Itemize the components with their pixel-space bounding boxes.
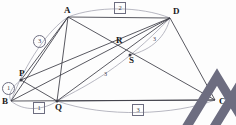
vertex-label-D: D bbox=[173, 7, 180, 16]
marker-tri-3-a-text: 3 bbox=[99, 71, 112, 77]
segment-A-B bbox=[11, 17, 68, 101]
vertex-label-A: A bbox=[64, 6, 71, 15]
marker-tri-3-a: 3 bbox=[99, 68, 112, 79]
marker-tri-3-b: 3 bbox=[148, 33, 161, 44]
marker-circle-1: 1 bbox=[2, 82, 15, 95]
point-dot-P bbox=[20, 79, 23, 82]
segment-A-D bbox=[68, 17, 170, 18]
vertex-label-S: S bbox=[129, 56, 134, 65]
vertex-label-P: P bbox=[19, 69, 25, 78]
geometry-diagram: ADBCPQRS 1312333 bbox=[0, 0, 236, 125]
vertex-label-B: B bbox=[2, 97, 8, 106]
marker-tri-3-b-text: 3 bbox=[148, 36, 161, 42]
marker-box-1: 1 bbox=[33, 102, 45, 114]
vertex-label-Q: Q bbox=[55, 103, 62, 112]
marker-circle-3: 3 bbox=[33, 35, 46, 48]
vertex-label-R: R bbox=[116, 36, 123, 45]
marker-box-2: 2 bbox=[114, 2, 126, 14]
marker-tri-3-b-outline bbox=[148, 33, 236, 125]
segment-P-Q bbox=[21, 80, 57, 101]
